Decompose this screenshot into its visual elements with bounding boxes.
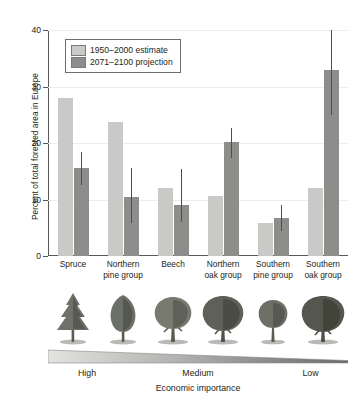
legend-item-projection: 2071–2100 projection [71, 56, 173, 68]
y-tick-label: 20 [31, 138, 41, 148]
error-bar [81, 152, 82, 185]
legend-label-estimate: 1950–2000 estimate [90, 45, 168, 55]
error-bar [131, 168, 132, 223]
y-tick-label: 0 [36, 251, 41, 261]
bar-estimate [308, 188, 323, 256]
x-axis-title: Economic importance [48, 383, 348, 393]
x-category-label: Southernoak group [294, 259, 352, 280]
legend-swatch-estimate-icon [71, 45, 86, 56]
importance-scale-labels: HighMediumLow [48, 368, 348, 381]
error-bar [231, 128, 232, 158]
southern-pine-tree-icon [248, 290, 298, 346]
y-tick-label: 30 [31, 82, 41, 92]
importance-label: Medium [168, 368, 228, 378]
southern-oak-tree-icon [298, 290, 348, 346]
y-tick-mark [43, 256, 48, 257]
chart-legend: 1950–2000 estimate 2071–2100 projection [65, 39, 181, 73]
error-bar [181, 169, 182, 222]
legend-label-projection: 2071–2100 projection [90, 57, 173, 67]
bar-estimate [58, 98, 73, 256]
bar-estimate [208, 196, 223, 256]
economic-importance-wedge [48, 349, 348, 365]
bar-group [248, 30, 298, 256]
importance-label: Low [281, 368, 341, 378]
spruce-conifer-tree-icon [48, 290, 98, 346]
x-category-label-line: oak group [294, 270, 352, 281]
legend-swatch-projection-icon [71, 57, 86, 68]
y-tick-label: 40 [31, 25, 41, 35]
importance-label: High [57, 368, 117, 378]
bar-projection [224, 142, 239, 256]
x-category-label-line: pine group [94, 270, 152, 281]
wedge-shape-icon [48, 349, 348, 365]
beech-broadleaf-tree-icon [148, 290, 198, 346]
error-bar [331, 30, 332, 115]
bar-group [198, 30, 248, 256]
x-axis-category-labels: SpruceNorthernpine groupBeechNorthernoak… [48, 259, 348, 285]
bar-estimate [108, 122, 123, 256]
error-bar [281, 205, 282, 230]
bar-estimate [258, 223, 273, 256]
tree-illustration-row [48, 290, 348, 346]
bar-estimate [158, 188, 173, 256]
bar-group [298, 30, 348, 256]
legend-item-estimate: 1950–2000 estimate [71, 44, 173, 56]
pine-tree-icon [98, 290, 148, 346]
y-tick-label: 10 [31, 195, 41, 205]
x-category-label-line: Southern [294, 259, 352, 270]
chart-figure: Percent of total forested area in Europe… [0, 0, 357, 408]
northern-oak-tree-icon [198, 290, 248, 346]
